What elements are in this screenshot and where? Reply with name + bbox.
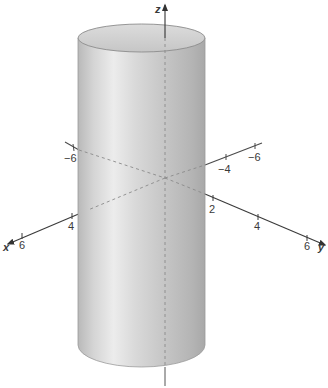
- y-tick-label-6: 6: [304, 240, 310, 252]
- y-tick-label-neg4: −4: [218, 163, 231, 175]
- diagram-canvas: z x y −6 4 6 −6 −4 2 4 6: [0, 0, 328, 388]
- x-axis-negative-segment: [65, 142, 79, 150]
- x-axis-label: x: [2, 241, 10, 253]
- x-tick-label-6: 6: [19, 239, 25, 251]
- x-tick-label-neg6: −6: [64, 152, 77, 164]
- y-tick-label-2: 2: [209, 203, 215, 215]
- y-tick-label-4: 4: [254, 220, 260, 232]
- y-axis-label: y: [317, 241, 325, 253]
- cylinder-side-surface: [78, 38, 205, 367]
- cylinder-3d-diagram: z x y −6 4 6 −6 −4 2 4 6: [0, 0, 328, 388]
- cylinder: [78, 24, 205, 367]
- y-axis: [205, 143, 325, 245]
- cylinder-top-opening: [78, 24, 205, 52]
- x-tick-neg6: [73, 144, 74, 151]
- x-tick-label-4: 4: [68, 220, 74, 232]
- z-axis-label: z: [154, 3, 161, 15]
- y-tick-label-neg6: −6: [248, 151, 261, 163]
